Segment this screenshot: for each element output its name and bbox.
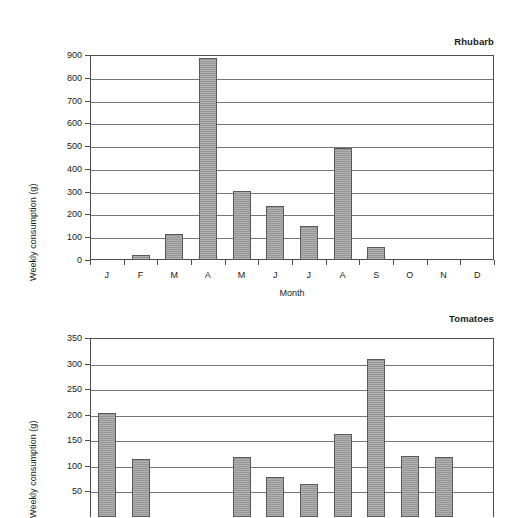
bar xyxy=(98,413,116,517)
x-tick-label: J xyxy=(105,270,110,280)
x-tick-label: J xyxy=(307,270,312,280)
x-tick-mark xyxy=(124,260,125,265)
y-tick-mark xyxy=(85,169,90,170)
bar xyxy=(435,457,453,517)
x-tick-mark xyxy=(494,260,495,265)
y-tick-mark xyxy=(85,440,90,441)
x-tick-label: A xyxy=(205,270,211,280)
plot-area-tomatoes xyxy=(90,338,494,517)
y-tick-label: 100 xyxy=(67,232,82,242)
x-tick-label: A xyxy=(339,270,345,280)
y-tick-mark xyxy=(85,101,90,102)
x-tick-label: N xyxy=(440,270,447,280)
chart-title-tomatoes: Tomatoes xyxy=(449,313,494,324)
y-tick-mark xyxy=(85,466,90,467)
gridline xyxy=(91,416,493,417)
bar xyxy=(334,148,352,260)
gridline xyxy=(91,79,493,80)
y-tick-label: 800 xyxy=(67,73,82,83)
gridline xyxy=(91,193,493,194)
chart-title-rhubarb: Rhubarb xyxy=(454,36,494,47)
y-tick-mark xyxy=(85,55,90,56)
y-tick-label: 200 xyxy=(67,209,82,219)
gridline xyxy=(91,390,493,391)
y-tick-label: 250 xyxy=(67,384,82,394)
x-tick-label: D xyxy=(474,270,481,280)
bar xyxy=(233,191,251,260)
y-tick-label: 150 xyxy=(67,435,82,445)
y-tick-mark xyxy=(85,192,90,193)
y-tick-label: 700 xyxy=(67,96,82,106)
gridline xyxy=(91,238,493,239)
y-axis-label-tomatoes: Weekly consumption (g) xyxy=(28,421,38,518)
y-tick-mark xyxy=(85,237,90,238)
bar xyxy=(367,247,385,260)
y-tick-label: 300 xyxy=(67,359,82,369)
bar xyxy=(367,359,385,517)
gridline xyxy=(91,492,493,493)
x-tick-label: O xyxy=(406,270,413,280)
chart-rhubarb: Rhubarb Weekly consumption (g) 010020030… xyxy=(0,36,522,301)
x-tick-mark xyxy=(90,260,91,265)
gridline xyxy=(91,441,493,442)
y-tick-label: 50 xyxy=(72,486,82,496)
gridline xyxy=(91,147,493,148)
x-tick-mark xyxy=(292,260,293,265)
x-tick-mark xyxy=(359,260,360,265)
y-tick-label: 100 xyxy=(67,461,82,471)
bar xyxy=(199,58,217,260)
y-tick-label: 400 xyxy=(67,164,82,174)
x-tick-mark xyxy=(225,260,226,265)
y-tick-mark xyxy=(85,491,90,492)
chart-tomatoes: Tomatoes Weekly consumption (g) 50100150… xyxy=(0,313,522,517)
y-tick-mark xyxy=(85,123,90,124)
x-tick-mark xyxy=(258,260,259,265)
x-tick-mark xyxy=(393,260,394,265)
bar xyxy=(165,234,183,260)
gridline xyxy=(91,365,493,366)
x-tick-label: J xyxy=(273,270,278,280)
y-tick-mark xyxy=(85,364,90,365)
plot-area-rhubarb xyxy=(90,55,494,260)
y-tick-mark xyxy=(85,415,90,416)
y-tick-label: 300 xyxy=(67,187,82,197)
bar xyxy=(233,457,251,517)
bar xyxy=(266,206,284,260)
y-axis-label-rhubarb: Weekly consumption (g) xyxy=(28,184,38,281)
gridline xyxy=(91,102,493,103)
bar xyxy=(401,456,419,517)
x-tick-label: M xyxy=(170,270,178,280)
y-tick-mark xyxy=(85,214,90,215)
bar xyxy=(300,226,318,260)
y-tick-label: 900 xyxy=(67,50,82,60)
x-tick-label: F xyxy=(138,270,144,280)
gridline xyxy=(91,215,493,216)
bar xyxy=(132,255,150,260)
x-tick-label: M xyxy=(238,270,246,280)
bar xyxy=(266,477,284,517)
y-tick-label: 600 xyxy=(67,118,82,128)
y-tick-label: 200 xyxy=(67,410,82,420)
y-tick-label: 500 xyxy=(67,141,82,151)
bar xyxy=(300,484,318,517)
x-tick-mark xyxy=(326,260,327,265)
bar xyxy=(132,459,150,517)
x-axis-title-rhubarb: Month xyxy=(279,288,304,298)
x-tick-label: S xyxy=(373,270,379,280)
y-tick-mark xyxy=(85,146,90,147)
y-tick-label: 350 xyxy=(67,333,82,343)
gridline xyxy=(91,467,493,468)
gridline xyxy=(91,124,493,125)
y-tick-mark xyxy=(85,389,90,390)
gridline xyxy=(91,170,493,171)
x-tick-mark xyxy=(427,260,428,265)
x-tick-mark xyxy=(460,260,461,265)
y-tick-mark xyxy=(85,78,90,79)
y-tick-mark xyxy=(85,338,90,339)
y-tick-label: 0 xyxy=(77,255,82,265)
x-tick-mark xyxy=(191,260,192,265)
bar xyxy=(334,434,352,517)
x-tick-mark xyxy=(157,260,158,265)
